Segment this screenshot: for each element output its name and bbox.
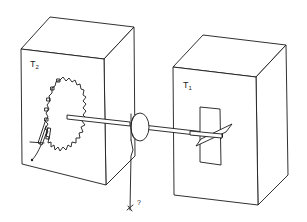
pawl-spring-anchor (31, 159, 33, 161)
label-t1: T1 (183, 81, 192, 91)
right-box-t1 (173, 35, 288, 205)
label-t1-sub: 1 (189, 85, 192, 91)
label-t2: T2 (30, 60, 39, 70)
left-box-t2 (21, 17, 135, 185)
diagram-canvas (0, 0, 307, 222)
weight-question-mark: ? (137, 199, 141, 206)
ratchet-pawl-diagram: T2 T1 ? (0, 0, 307, 222)
pulley-face (131, 113, 149, 141)
pulley-wheel (131, 113, 149, 141)
label-t2-sub: 2 (36, 64, 39, 70)
